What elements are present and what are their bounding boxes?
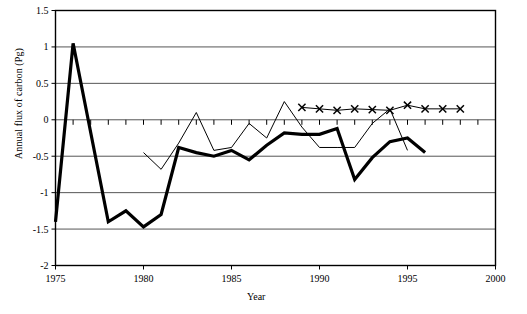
- x-tick-label: 1980: [134, 273, 154, 284]
- series-thin-line: [144, 102, 408, 170]
- series-x-marker-line: [302, 105, 460, 110]
- chart-canvas: 1.510.50-0.5-1-1.5-2 1975198019851990199…: [0, 0, 527, 314]
- x-marker: [404, 102, 411, 109]
- y-tick-label: -1.5: [33, 224, 49, 235]
- x-axis-tick-labels: 197519801985199019952000: [46, 273, 506, 284]
- y-tick-label: -0.5: [33, 151, 49, 162]
- x-tick-label: 1975: [46, 273, 66, 284]
- y-tick-label: 0.5: [36, 78, 49, 89]
- y-tick-label: -1: [40, 187, 48, 198]
- x-tick-label: 1995: [398, 273, 418, 284]
- y-tick-label: 1: [44, 41, 49, 52]
- y-axis-tick-labels: 1.510.50-0.5-1-1.5-2: [33, 5, 49, 271]
- y-tick-label: 0: [44, 114, 49, 125]
- data-series-group: [56, 43, 464, 227]
- x-tick-label: 2000: [486, 273, 506, 284]
- y-tick-label: 1.5: [36, 5, 49, 16]
- chart-figure: 1.510.50-0.5-1-1.5-2 1975198019851990199…: [0, 0, 527, 314]
- x-axis-title: Year: [247, 291, 265, 302]
- y-tick-label: -2: [40, 260, 48, 271]
- x-tick-label: 1990: [310, 273, 330, 284]
- y-axis-title: Annual flux of carbon (Pg): [13, 24, 24, 184]
- x-tick-label: 1985: [222, 273, 242, 284]
